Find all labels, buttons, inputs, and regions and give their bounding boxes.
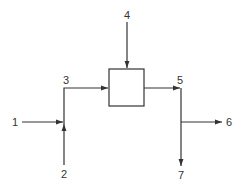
process-unit-box — [109, 69, 144, 106]
stream-2: 2 — [61, 124, 67, 180]
stream-5: 5 — [144, 74, 183, 88]
flow-diagram: 4 1 2 3 5 7 6 — [0, 0, 246, 188]
stream-4: 4 — [124, 9, 130, 68]
stream-3: 3 — [63, 74, 108, 124]
stream-5-label: 5 — [177, 74, 183, 86]
stream-2-label: 2 — [61, 168, 67, 180]
stream-7: 7 — [178, 88, 184, 181]
stream-3-arrow — [64, 88, 108, 124]
stream-6: 6 — [181, 116, 232, 128]
stream-7-label: 7 — [178, 169, 184, 181]
stream-3-label: 3 — [63, 74, 69, 86]
stream-4-label: 4 — [124, 9, 130, 21]
stream-1: 1 — [12, 116, 63, 128]
stream-1-label: 1 — [12, 116, 18, 128]
stream-6-label: 6 — [226, 116, 232, 128]
